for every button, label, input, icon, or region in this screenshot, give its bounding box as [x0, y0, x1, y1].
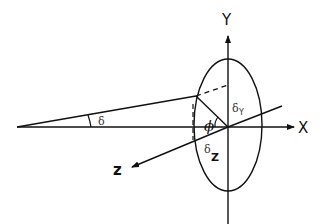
delta-y-base: δ [232, 102, 239, 115]
delta-label: δ [98, 115, 105, 128]
delta-z-sub: Z [211, 151, 219, 164]
phi-label: ϕ [204, 117, 214, 135]
delta-y-label: δ Y [232, 102, 244, 117]
delta-z-label: δ Z [204, 143, 219, 164]
x-axis-label: X [298, 119, 308, 137]
y-axis-label: Y [221, 11, 232, 29]
diagram-canvas: Y X z δ ϕ δ Y δ Z [0, 0, 322, 224]
phi-angle-arc [215, 117, 218, 127]
delta-angle-arc [88, 115, 91, 127]
delta-y-sub: Y [238, 108, 244, 117]
z-axis-label: z [113, 161, 122, 179]
delta-ray [17, 96, 196, 127]
delta-z-base: δ [204, 143, 211, 156]
